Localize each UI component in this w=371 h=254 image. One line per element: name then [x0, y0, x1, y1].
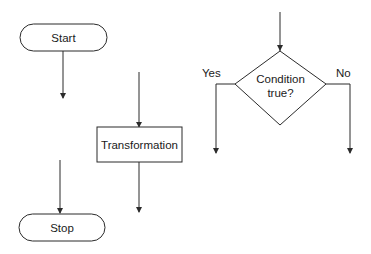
start-arrowhead-icon	[60, 93, 66, 99]
yes-label: Yes	[202, 67, 221, 79]
stop-label: Stop	[50, 222, 74, 234]
transformation-process[interactable]: Transformation	[97, 127, 182, 162]
flowchart-canvas: Start Stop Transformation Condition true…	[0, 0, 371, 254]
stop-terminator[interactable]: Stop	[19, 214, 105, 241]
transformation-label: Transformation	[101, 139, 178, 151]
transformation-out-arrowhead-icon	[136, 207, 142, 213]
condition-label-line1: Condition	[256, 73, 305, 85]
condition-decision[interactable]: Condition true?	[235, 51, 326, 125]
yes-arrowhead-icon	[213, 148, 219, 154]
no-label: No	[336, 67, 351, 79]
no-arrowhead-icon	[347, 148, 353, 154]
start-terminator[interactable]: Start	[20, 24, 107, 51]
start-label: Start	[51, 32, 76, 44]
yes-branch-arrow	[216, 84, 235, 153]
stop-arrowhead-icon	[57, 208, 63, 214]
condition-in-arrowhead-icon	[277, 45, 283, 51]
condition-label-line2: true?	[267, 87, 293, 99]
no-branch-arrow	[326, 84, 350, 153]
